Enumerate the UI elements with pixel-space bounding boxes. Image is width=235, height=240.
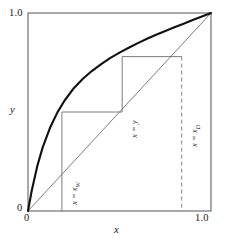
- y-axis-tick-label-bottom: 0: [17, 202, 22, 213]
- plot-canvas: [0, 0, 235, 240]
- bottoms-label-main: x = x: [69, 187, 79, 205]
- x-axis-tick-label-right: 1.0: [195, 212, 209, 223]
- distillate-label-subscript: D: [194, 125, 201, 130]
- distillate-label-main: x = x: [189, 129, 199, 147]
- distillate-composition-label: x = xD: [189, 125, 201, 147]
- diagonal-line-label: x = y: [129, 120, 139, 138]
- y-axis-title: y: [10, 103, 15, 115]
- bottoms-label-subscript: W: [74, 182, 81, 187]
- x-axis-title: x: [114, 223, 119, 235]
- x-axis-tick-label-left: 0: [24, 212, 29, 223]
- bottoms-composition-label: x = xW: [69, 182, 81, 205]
- equilibrium-diagram-figure: 1.0 0 0 1.0 y x x = y x = xW x = xD: [0, 0, 235, 240]
- y-axis-tick-label-top: 1.0: [9, 7, 23, 18]
